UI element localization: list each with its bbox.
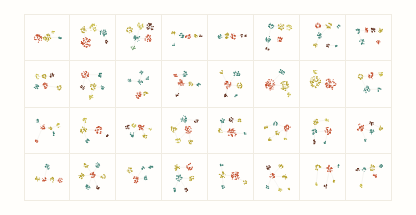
network-node: [97, 188, 98, 189]
network-node: [82, 85, 83, 86]
network-panel[interactable]: [24, 61, 70, 108]
network-panel[interactable]: [24, 14, 70, 61]
network-node: [190, 163, 191, 164]
network-node: [129, 81, 130, 82]
network-panel[interactable]: [346, 14, 392, 61]
network-node: [330, 132, 331, 133]
network-panel[interactable]: [346, 108, 392, 155]
network-node: [100, 32, 101, 33]
network-node: [313, 143, 314, 144]
network-panel[interactable]: [162, 108, 208, 155]
network-node: [178, 175, 179, 176]
network-panel[interactable]: [254, 108, 300, 155]
network-node: [272, 85, 273, 86]
network-node: [231, 134, 232, 135]
network-node: [226, 38, 227, 39]
network-panel[interactable]: [346, 154, 392, 201]
network-node: [142, 81, 143, 82]
network-node: [319, 83, 320, 84]
network-plot: [208, 15, 253, 60]
network-panel[interactable]: [300, 108, 346, 155]
network-panel[interactable]: [346, 61, 392, 108]
network-panel[interactable]: [70, 61, 116, 108]
network-node: [312, 130, 313, 131]
network-node: [227, 85, 228, 86]
network-node: [143, 134, 144, 135]
network-node: [270, 81, 271, 82]
network-node: [52, 177, 53, 178]
network-node: [80, 128, 81, 129]
network-panel[interactable]: [300, 61, 346, 108]
network-panel[interactable]: [70, 108, 116, 155]
network-node: [45, 37, 46, 38]
network-node: [149, 27, 150, 28]
network-panel[interactable]: [24, 108, 70, 155]
network-panel[interactable]: [254, 154, 300, 201]
network-node: [102, 176, 103, 177]
network-panel[interactable]: [300, 14, 346, 61]
network-node: [185, 118, 186, 119]
network-node: [137, 25, 138, 26]
network-node: [281, 189, 282, 190]
network-node: [182, 35, 183, 36]
network-panel[interactable]: [116, 154, 162, 201]
network-panel[interactable]: [116, 14, 162, 61]
network-node: [270, 174, 271, 175]
network-node: [360, 78, 361, 79]
network-node: [39, 38, 40, 39]
network-node: [289, 27, 290, 28]
network-node: [48, 165, 49, 166]
network-panel[interactable]: [208, 108, 254, 155]
network-node: [151, 127, 152, 128]
network-node: [366, 87, 367, 88]
network-node: [266, 39, 267, 40]
network-panel[interactable]: [24, 154, 70, 201]
network-node: [91, 177, 92, 178]
network-panel[interactable]: [254, 14, 300, 61]
network-edge: [36, 127, 42, 142]
network-node: [89, 95, 90, 96]
network-node: [326, 87, 327, 88]
network-node: [240, 85, 241, 86]
network-node: [282, 85, 283, 86]
network-panel[interactable]: [116, 61, 162, 108]
network-node: [147, 77, 148, 78]
network-node: [269, 79, 270, 80]
network-node: [284, 127, 285, 128]
network-node: [237, 74, 238, 75]
network-node: [176, 128, 177, 129]
network-panel[interactable]: [208, 154, 254, 201]
network-node: [44, 74, 45, 75]
network-node: [358, 124, 359, 125]
network-panel[interactable]: [162, 14, 208, 61]
network-node: [92, 174, 93, 175]
network-node: [53, 75, 54, 76]
network-panel[interactable]: [208, 14, 254, 61]
network-panel[interactable]: [70, 14, 116, 61]
network-node: [371, 133, 372, 134]
network-plot: [162, 61, 207, 107]
network-node: [313, 80, 314, 81]
network-node: [81, 129, 82, 130]
network-panel[interactable]: [116, 108, 162, 155]
network-panel[interactable]: [208, 61, 254, 108]
network-panel[interactable]: [254, 61, 300, 108]
network-node: [130, 170, 131, 171]
network-node: [137, 181, 138, 182]
network-node: [190, 130, 191, 131]
network-node: [146, 179, 147, 180]
network-node: [44, 86, 45, 87]
network-node: [147, 29, 148, 30]
network-node: [79, 175, 80, 176]
network-node: [270, 24, 271, 25]
network-panel[interactable]: [162, 154, 208, 201]
network-node: [367, 31, 368, 32]
network-node: [198, 84, 199, 85]
network-panel[interactable]: [70, 154, 116, 201]
network-node: [43, 75, 44, 76]
network-node: [269, 39, 270, 40]
network-panel[interactable]: [300, 154, 346, 201]
network-panel[interactable]: [162, 61, 208, 108]
network-node: [130, 79, 131, 80]
node-layer: [80, 23, 108, 48]
